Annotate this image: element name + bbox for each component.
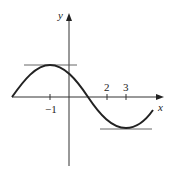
function-graph: y x −1 2 3 xyxy=(0,0,177,175)
tick-label-2: 2 xyxy=(104,81,110,93)
y-axis-label: y xyxy=(57,9,63,21)
tick-label-3: 3 xyxy=(123,81,129,93)
x-axis-label: x xyxy=(157,101,163,113)
x-axis-arrow-icon xyxy=(156,94,164,100)
y-axis-arrow-icon xyxy=(66,13,72,21)
tick-label-neg1: −1 xyxy=(45,103,57,115)
